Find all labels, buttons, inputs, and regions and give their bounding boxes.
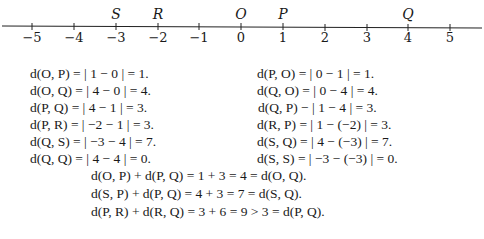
equation: d(O, P) = | 1 − 0 | = 1. — [30, 66, 149, 82]
equation: d(S, P) + d(P, Q) = 4 + 3 = 7 = d(S, Q). — [91, 186, 302, 202]
tick-label: −1 — [189, 30, 208, 45]
number-line: −5 −4 −3 −2 −1 0 1 2 3 4 5 S R O P Q — [0, 0, 484, 55]
tick-label: −2 — [148, 30, 167, 45]
point-label-q: Q — [402, 6, 413, 22]
tick-label: 2 — [321, 30, 329, 45]
equation: d(P, Q) = | 4 − 1 | = 3. — [30, 100, 147, 116]
equation: d(Q, Q) = | 4 − 4 | = 0. — [30, 151, 151, 167]
tick-label: 5 — [446, 30, 454, 45]
equation: d(R, P) = | 1 − (−2) | = 3. — [257, 117, 391, 133]
tick-label: −4 — [64, 30, 83, 45]
equation: d(O, Q) = | 4 − 0 | = 4. — [30, 83, 151, 99]
equation: d(P, R) = | −2 − 1 | = 3. — [30, 117, 154, 133]
equation: d(S, S) = | −3 − (−3) | = 0. — [257, 151, 398, 167]
tick-label: 1 — [279, 30, 287, 45]
point-label-o: O — [235, 6, 246, 22]
equation: d(O, P) + d(P, Q) = 1 + 3 = 4 = d(O, Q). — [91, 168, 306, 184]
equation: d(P, R) + d(R, Q) = 3 + 6 = 9 > 3 = d(P,… — [91, 204, 325, 220]
equation: d(P, O) = | 0 − 1 | = 1. — [257, 66, 374, 82]
equation: d(Q, S) = | −3 − 4 | = 7. — [30, 134, 156, 150]
point-label-p: P — [278, 6, 287, 22]
point-label-r: R — [153, 6, 164, 22]
tick-label: 0 — [237, 30, 245, 45]
equation: d(Q, O) = | 0 − 4 | = 4. — [257, 83, 378, 99]
tick-label: 4 — [404, 30, 412, 45]
tick-label: 3 — [363, 30, 371, 45]
tick-label: −3 — [106, 30, 125, 45]
equation: d(Q, P) − | 1 − 4 | = 3. — [258, 100, 377, 116]
equation: d(S, Q) = | 4 − (−3) | = 7. — [257, 134, 392, 150]
point-label-s: S — [111, 6, 121, 22]
tick-label: −5 — [22, 30, 41, 45]
